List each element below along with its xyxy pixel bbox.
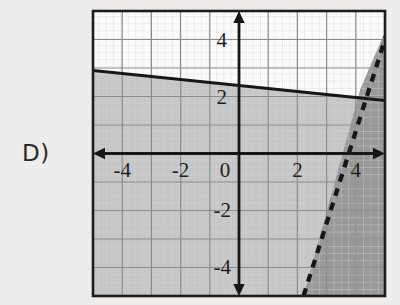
x-tick-label-4: 4 — [351, 158, 362, 182]
x-tick-label--2: -2 — [172, 158, 190, 182]
answer-choice-label: D) — [22, 140, 50, 166]
worksheet-page: D) — [0, 0, 400, 305]
y-tick-label--2: -2 — [214, 198, 232, 222]
coordinate-plane-figure: -4 -2 0 2 4 4 2 -2 -4 — [91, 9, 387, 298]
y-tick-label-2: 2 — [217, 85, 228, 109]
graph-svg: -4 -2 0 2 4 4 2 -2 -4 — [91, 9, 387, 298]
y-tick-label-4: 4 — [217, 28, 228, 52]
x-tick-label-2: 2 — [292, 158, 303, 182]
x-tick-label--4: -4 — [113, 158, 131, 182]
y-tick-label--4: -4 — [214, 255, 232, 279]
x-tick-label-0: 0 — [220, 158, 231, 182]
